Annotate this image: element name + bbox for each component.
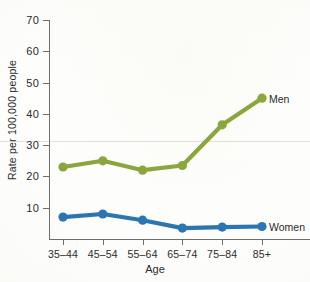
data-point-men-5 bbox=[257, 94, 266, 103]
data-point-men-2 bbox=[138, 166, 147, 175]
data-point-women-4 bbox=[218, 223, 227, 232]
data-point-men-3 bbox=[178, 161, 187, 170]
data-point-women-5 bbox=[257, 222, 266, 231]
series-label-women: Women bbox=[269, 221, 305, 233]
data-point-women-2 bbox=[138, 216, 147, 225]
data-point-men-4 bbox=[218, 120, 227, 129]
series-plot-area bbox=[0, 0, 310, 282]
data-point-men-1 bbox=[98, 156, 107, 165]
data-point-women-0 bbox=[58, 213, 67, 222]
x-axis-label: Age bbox=[0, 263, 310, 275]
chart-container: Rate per 100,000 people 10203040506070 3… bbox=[0, 0, 310, 282]
series-label-men: Men bbox=[269, 93, 289, 105]
data-point-men-0 bbox=[58, 162, 67, 171]
data-point-women-1 bbox=[98, 209, 107, 218]
markers-women bbox=[58, 209, 266, 232]
data-point-women-3 bbox=[178, 224, 187, 233]
line-men bbox=[63, 98, 262, 170]
line-women bbox=[63, 214, 262, 228]
